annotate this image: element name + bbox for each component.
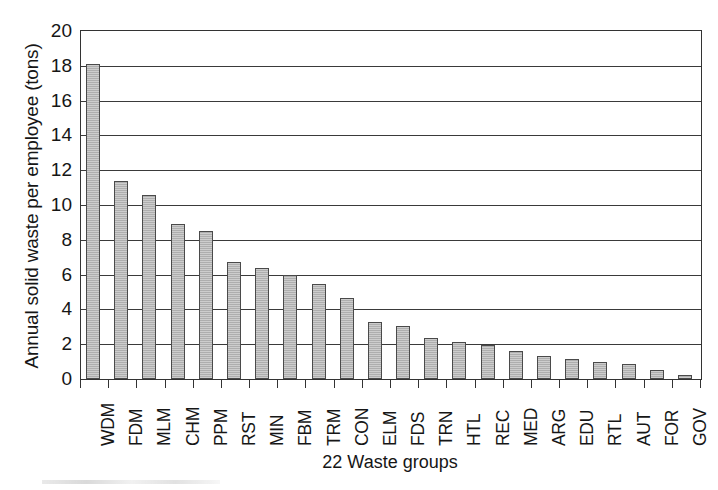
x-axis-tick-label: MLM [156, 388, 174, 446]
x-axis-tick [249, 379, 250, 388]
x-axis-tick [136, 379, 137, 388]
bar [622, 364, 636, 379]
x-axis-tick-label: REC [495, 388, 513, 446]
y-axis-tick-label: 8 [61, 229, 72, 248]
bar [452, 342, 466, 379]
bar [86, 64, 100, 379]
y-axis-tick-label: 2 [61, 334, 72, 353]
x-axis-tick [305, 379, 306, 388]
bar [650, 370, 664, 379]
x-axis-tick [334, 379, 335, 388]
plot-area [80, 30, 702, 380]
y-axis-tick-label: 0 [61, 369, 72, 388]
x-axis-tick-labels: WDMFDMMLMCHMPPMRSTMINFBMTRMCONELMFDSTRNH… [80, 390, 702, 448]
y-axis-tick-label: 4 [61, 299, 72, 318]
bar [368, 322, 382, 379]
x-axis-tick [221, 379, 222, 388]
x-axis-tick [672, 379, 673, 388]
x-axis-tick [193, 379, 194, 388]
x-axis-title: 22 Waste groups [80, 452, 700, 473]
x-axis-tick-label: HTL [466, 388, 484, 446]
x-axis-tick-label: ELM [382, 388, 400, 446]
x-axis-tick [587, 379, 588, 388]
x-axis-tick-label: FBM [297, 388, 315, 446]
y-axis-tick-label: 10 [51, 195, 72, 214]
x-axis-tick-label: PPM [213, 388, 231, 446]
bar [340, 298, 354, 379]
bar [565, 359, 579, 379]
x-axis-tick-label: WDM [100, 388, 118, 446]
y-axis-tick-label: 6 [61, 264, 72, 283]
x-axis-tick-label: MED [523, 388, 541, 446]
y-axis-tick-labels: 02468101214161820 [20, 20, 72, 388]
x-axis-tick-label: ARG [551, 388, 569, 446]
bar [593, 362, 607, 379]
x-axis-tick-label: EDU [579, 388, 597, 446]
x-axis-tick [108, 379, 109, 388]
y-axis-tick-label: 18 [51, 55, 72, 74]
x-axis-tick-label: TRM [326, 388, 344, 446]
y-axis-tick-label: 12 [51, 160, 72, 179]
x-axis-tick [644, 379, 645, 388]
x-axis-tick [503, 379, 504, 388]
bar [396, 326, 410, 379]
x-axis-tick-label: CHM [185, 388, 203, 446]
x-axis-tick-label: GOV [692, 388, 710, 446]
bar [509, 351, 523, 379]
x-axis-ticks [80, 379, 702, 388]
x-axis-tick-label: FOR [664, 388, 682, 446]
bar [283, 275, 297, 379]
x-axis-tick [559, 379, 560, 388]
x-axis-tick [390, 379, 391, 388]
bar [312, 284, 326, 379]
bar [255, 268, 269, 379]
y-axis-tick-label: 16 [51, 90, 72, 109]
x-axis-tick-label: MIN [269, 388, 287, 446]
x-axis-tick [80, 379, 81, 388]
x-axis-tick [475, 379, 476, 388]
x-axis-tick-label: TRN [438, 388, 456, 446]
bar-series [81, 31, 701, 379]
x-axis-tick-label: FDM [128, 388, 146, 446]
bar [142, 195, 156, 379]
bar [199, 231, 213, 379]
bar [481, 345, 495, 379]
y-axis-tick-label: 14 [51, 125, 72, 144]
x-axis-tick-label: AUT [636, 388, 654, 446]
y-axis-tick-label: 20 [51, 21, 72, 40]
x-axis-tick [418, 379, 419, 388]
bar [424, 338, 438, 379]
bar [537, 356, 551, 379]
scan-artifact [42, 480, 220, 484]
x-axis-tick-label: CON [354, 388, 372, 446]
x-axis-tick [700, 379, 701, 388]
x-axis-tick [362, 379, 363, 388]
x-axis-tick [165, 379, 166, 388]
x-axis-tick-label: RST [241, 388, 259, 446]
bar [114, 181, 128, 379]
x-axis-tick-label: RTL [607, 388, 625, 446]
chart-figure: Annual solid waste per employee (tons) 0… [0, 0, 718, 490]
x-axis-tick [446, 379, 447, 388]
x-axis-tick [615, 379, 616, 388]
bar [227, 262, 241, 379]
x-axis-tick-label: FDS [410, 388, 428, 446]
x-axis-tick [277, 379, 278, 388]
x-axis-tick [531, 379, 532, 388]
bar [171, 224, 185, 379]
